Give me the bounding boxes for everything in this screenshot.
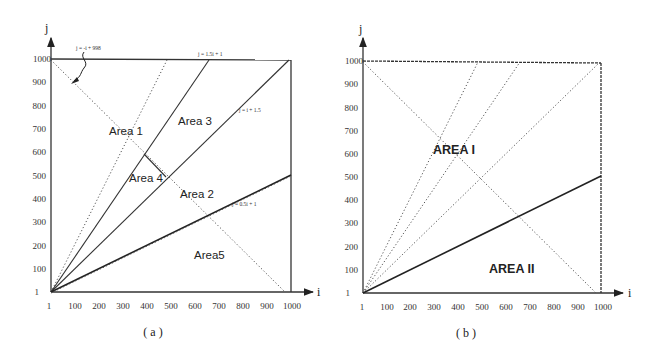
svg-text:400: 400 [345,195,359,205]
x-tick-labels-b: 1 100 200 300 400 500 600 700 800 900 10… [360,302,613,312]
svg-text:400: 400 [451,302,465,312]
svg-text:700: 700 [212,301,226,311]
svg-text:100: 100 [380,302,394,312]
area-4-label: Area 4 [129,172,163,184]
dotted-steep-line [363,62,478,293]
boundary-line [363,176,601,293]
area-ii-label: AREA II [489,262,534,276]
svg-text:1: 1 [346,288,351,298]
y-tick-labels-b: 1 100 200 300 400 500 600 700 800 900 10… [345,56,364,298]
panel-b: j i 1 100 200 300 400 500 600 700 800 90… [345,22,633,340]
panel-a: j i 1 100 200 300 400 500 600 700 800 90… [33,21,322,339]
svg-text:600: 600 [188,301,202,311]
figure-canvas: j i 1 100 200 300 400 500 600 700 800 90… [0,0,655,354]
svg-text:300: 300 [33,217,47,227]
svg-text:600: 600 [345,149,359,159]
svg-text:900: 900 [33,77,47,87]
svg-text:800: 800 [547,302,561,312]
svg-text:400: 400 [33,194,47,204]
dotted-1-5i-line [363,62,520,293]
dotted-diagonal-line [363,63,599,293]
x-tick-labels-a: 1 100 200 300 400 500 600 700 800 900 10… [47,301,302,311]
svg-text:500: 500 [164,301,178,311]
equation-anti-diagonal: j = -i + 998 [75,45,101,51]
svg-text:200: 200 [92,301,106,311]
area-3-label: Area 3 [178,115,212,127]
annotation-arrow [74,52,86,81]
svg-text:1000: 1000 [345,56,364,66]
svg-text:1000: 1000 [283,301,302,311]
svg-text:1: 1 [360,302,365,312]
svg-text:800: 800 [33,101,47,111]
line-i [51,60,289,292]
j-axis-label: j [358,22,362,36]
svg-text:200: 200 [345,242,359,252]
svg-text:800: 800 [236,301,250,311]
i-axis-label: i [317,285,321,299]
svg-text:1000: 1000 [594,302,613,312]
svg-text:400: 400 [140,301,154,311]
y-tick-labels-a: 1 100 200 300 400 500 600 700 800 900 10… [33,54,52,297]
svg-text:1: 1 [35,287,40,297]
svg-text:100: 100 [33,264,47,274]
svg-text:1000: 1000 [33,54,52,64]
svg-text:200: 200 [403,302,417,312]
svg-text:300: 300 [345,218,359,228]
svg-text:600: 600 [33,147,47,157]
svg-text:300: 300 [116,301,130,311]
line-0-5i [51,175,291,292]
svg-text:700: 700 [33,124,47,134]
svg-text:1: 1 [47,301,52,311]
svg-text:500: 500 [345,172,359,182]
anti-diagonal-line [363,62,596,293]
area-2-label: Area 2 [180,188,214,200]
caption-a: ( a ) [143,325,162,339]
svg-text:700: 700 [345,126,359,136]
area-i-label: AREA I [433,143,475,157]
svg-text:500: 500 [475,302,489,312]
svg-text:100: 100 [345,265,359,275]
svg-text:200: 200 [33,241,47,251]
area-1-label: Area 1 [109,125,143,137]
j-axis-label: j [44,21,48,35]
area-5-label: Area5 [194,249,225,261]
equation-diagonal: j = i + 1.5 [238,107,261,113]
equation-steep: j = 1.5i + 1 [197,51,223,57]
svg-text:800: 800 [345,103,359,113]
svg-text:900: 900 [260,301,274,311]
svg-text:300: 300 [427,302,441,312]
equation-shallow: j = 0.5i + 1 [231,201,257,207]
svg-text:900: 900 [345,79,359,89]
caption-b: ( b ) [456,326,476,340]
svg-text:700: 700 [523,302,537,312]
svg-text:100: 100 [68,301,82,311]
svg-text:900: 900 [571,302,585,312]
svg-text:600: 600 [499,302,513,312]
i-axis-label: i [628,286,632,300]
svg-text:500: 500 [33,171,47,181]
